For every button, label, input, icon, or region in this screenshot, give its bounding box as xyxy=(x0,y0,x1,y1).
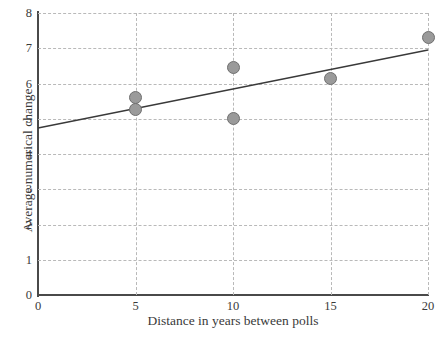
x-tick-label: 20 xyxy=(422,295,435,313)
x-axis-title: Distance in years between polls xyxy=(38,314,428,329)
y-axis-title: Average numerical change xyxy=(21,60,36,260)
x-tick-label: 10 xyxy=(227,295,240,313)
plot-area: 012345678 05101520 xyxy=(38,13,428,295)
data-point xyxy=(129,91,142,104)
data-point xyxy=(227,61,240,74)
x-tick-label: 5 xyxy=(132,295,138,313)
trend-line xyxy=(38,13,428,295)
x-tick-label: 0 xyxy=(35,295,41,313)
y-tick-label: 8 xyxy=(26,7,38,20)
scatter-chart: 012345678 05101520 Average numerical cha… xyxy=(0,0,439,339)
data-point xyxy=(324,72,337,85)
y-tick-label: 7 xyxy=(26,42,38,55)
x-tick-label: 15 xyxy=(324,295,337,313)
gridline-vertical xyxy=(428,13,429,295)
data-point xyxy=(422,31,435,44)
data-point xyxy=(227,112,240,125)
